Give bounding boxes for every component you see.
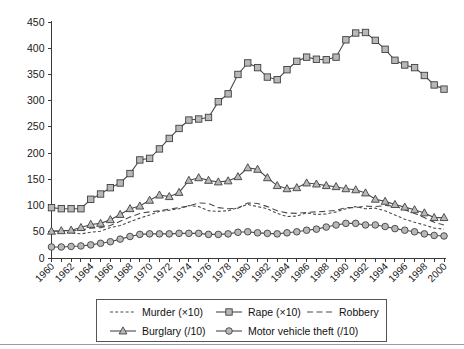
y-tick-label: 200 <box>27 147 45 159</box>
data-point-marker <box>284 67 290 73</box>
data-point-marker <box>313 56 319 62</box>
data-point-marker <box>127 170 133 176</box>
data-point-marker <box>68 243 75 250</box>
data-point-marker <box>205 114 211 120</box>
data-point-marker <box>58 244 65 251</box>
data-point-marker <box>137 157 143 163</box>
data-point-marker <box>294 58 300 64</box>
data-point-marker <box>107 185 113 191</box>
data-point-marker <box>87 242 94 249</box>
data-point-marker <box>215 99 221 105</box>
data-point-marker <box>117 236 124 243</box>
data-point-marker <box>421 72 427 78</box>
y-tick-label: 50 <box>33 225 45 237</box>
data-point-marker <box>68 206 74 212</box>
y-tick-label: 150 <box>27 173 45 185</box>
data-point-marker <box>362 222 369 229</box>
data-point-marker <box>195 230 202 237</box>
data-point-marker <box>117 180 123 186</box>
data-point-marker <box>176 125 182 131</box>
data-point-marker <box>225 91 231 97</box>
data-point-marker <box>205 231 212 238</box>
data-point-marker <box>431 232 438 239</box>
data-point-marker <box>156 231 163 238</box>
data-point-marker <box>264 74 270 80</box>
data-point-marker <box>352 30 358 36</box>
data-point-marker <box>313 226 320 233</box>
data-point-marker <box>137 231 144 238</box>
legend-entry-label: Murder (×10) <box>142 306 203 318</box>
data-point-marker <box>431 82 437 88</box>
legend-entry-label: Rape (×10) <box>248 306 301 318</box>
data-point-marker <box>48 244 55 251</box>
y-tick-label: 400 <box>27 42 45 54</box>
data-point-marker <box>186 230 193 237</box>
legend-sample-marker <box>226 309 232 315</box>
legend-entry-label: Robbery <box>339 306 379 318</box>
data-point-marker <box>244 228 251 235</box>
data-point-marker <box>274 76 280 82</box>
data-point-marker <box>372 222 379 229</box>
y-tick-label: 250 <box>27 120 45 132</box>
data-point-marker <box>362 29 368 35</box>
data-point-marker <box>97 191 103 197</box>
data-point-marker <box>294 228 301 235</box>
data-point-marker <box>254 64 260 70</box>
data-point-marker <box>333 222 340 229</box>
data-point-marker <box>195 116 201 122</box>
data-point-marker <box>254 230 261 237</box>
legend-entry-label: Motor vehicle theft (/10) <box>248 325 358 337</box>
data-point-marker <box>58 206 64 212</box>
data-point-marker <box>166 135 172 141</box>
data-point-marker <box>441 86 447 92</box>
data-point-marker <box>343 220 350 227</box>
data-point-marker <box>421 231 428 238</box>
data-point-marker <box>352 220 359 227</box>
data-point-marker <box>333 54 339 60</box>
data-point-marker <box>48 204 54 210</box>
legend-entry-label: Burglary (/10) <box>142 325 206 337</box>
data-point-marker <box>323 57 329 63</box>
data-point-marker <box>156 146 162 152</box>
data-point-marker <box>401 227 408 234</box>
y-tick-label: 350 <box>27 68 45 80</box>
data-point-marker <box>343 37 349 43</box>
data-point-marker <box>392 225 399 232</box>
data-point-marker <box>146 155 152 161</box>
data-point-marker <box>97 240 104 247</box>
data-point-marker <box>146 231 153 238</box>
data-point-marker <box>323 224 330 231</box>
data-point-marker <box>166 231 173 238</box>
y-tick-label: 300 <box>27 94 45 106</box>
data-point-marker <box>78 243 85 250</box>
legend-sample-marker <box>226 328 233 335</box>
data-point-marker <box>186 117 192 123</box>
data-point-marker <box>88 196 94 202</box>
data-point-marker <box>382 46 388 52</box>
data-point-marker <box>372 37 378 43</box>
data-point-marker <box>411 64 417 70</box>
data-point-marker <box>78 206 84 212</box>
data-point-marker <box>411 228 418 235</box>
data-point-marker <box>382 223 389 230</box>
data-point-marker <box>235 229 242 236</box>
data-point-marker <box>176 230 183 237</box>
data-point-marker <box>303 227 310 234</box>
data-point-marker <box>127 233 134 240</box>
data-point-marker <box>402 62 408 68</box>
data-point-marker <box>107 238 114 245</box>
data-point-marker <box>303 54 309 60</box>
data-point-marker <box>274 231 281 238</box>
data-point-marker <box>392 57 398 63</box>
y-tick-label: 0 <box>39 252 45 264</box>
data-point-marker <box>235 71 241 77</box>
data-point-marker <box>215 231 222 238</box>
data-point-marker <box>284 230 291 237</box>
data-point-marker <box>264 230 271 237</box>
y-tick-label: 450 <box>27 16 45 28</box>
data-point-marker <box>441 233 448 240</box>
data-point-marker <box>225 231 232 238</box>
chart-background <box>0 0 464 349</box>
crime-rate-trend-chart: 050100150200250300350400450 196019621964… <box>0 0 464 349</box>
y-tick-label: 100 <box>27 199 45 211</box>
